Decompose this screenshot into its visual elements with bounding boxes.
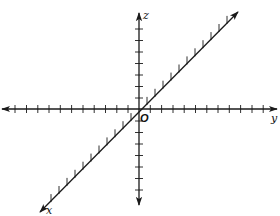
coordinate-axes-diagram: z y x O	[0, 0, 280, 216]
x-axis-label: x	[46, 204, 53, 216]
origin-label: O	[140, 112, 149, 124]
y-axis-label: y	[270, 112, 278, 125]
z-axis-label: z	[142, 9, 149, 22]
